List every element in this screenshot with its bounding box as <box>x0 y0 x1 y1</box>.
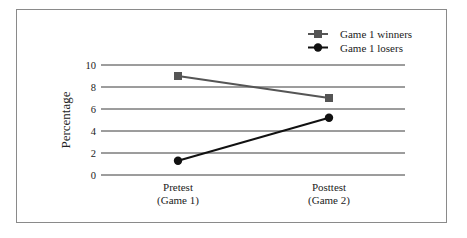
y-axis-label: Percentage <box>58 91 73 148</box>
circle-marker <box>325 114 333 122</box>
legend-circle-icon <box>314 43 322 51</box>
series-line <box>178 118 329 161</box>
circle-marker <box>174 157 182 165</box>
square-marker <box>325 94 333 102</box>
x-category-label: (Game 2) <box>308 194 350 207</box>
x-category-label: Pretest <box>163 181 193 193</box>
y-tick-label: 6 <box>91 104 96 115</box>
y-tick-label: 0 <box>91 170 96 181</box>
x-category-label: Posttest <box>312 181 346 193</box>
square-marker <box>174 72 182 80</box>
y-tick-label: 8 <box>91 82 96 93</box>
legend-label: Game 1 losers <box>340 42 403 54</box>
y-tick-label: 4 <box>91 126 97 137</box>
legend-label: Game 1 winners <box>340 28 412 40</box>
x-category-label: (Game 1) <box>157 194 199 207</box>
y-tick-label: 2 <box>91 148 96 159</box>
y-tick-label: 10 <box>86 60 97 71</box>
line-chart: 0246810PercentagePretest(Game 1)Posttest… <box>0 0 467 238</box>
legend-square-icon <box>314 30 322 38</box>
